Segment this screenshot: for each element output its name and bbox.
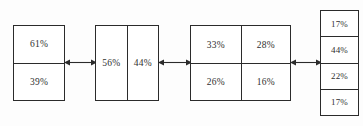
cell-box3-bottom-left: 26% bbox=[191, 63, 241, 100]
cell-label: 44% bbox=[134, 58, 152, 68]
double-arrow-box3-box4 bbox=[290, 58, 322, 67]
two-column-box: 56% 44% bbox=[95, 25, 159, 101]
four-row-box: 17% 44% 22% 17% bbox=[320, 10, 359, 116]
cell-box4-row3: 22% bbox=[321, 63, 358, 89]
cell-label: 56% bbox=[102, 58, 120, 68]
two-by-two-grid-box: 33% 28% 26% 16% bbox=[190, 25, 291, 101]
double-arrow-box2-box3 bbox=[158, 58, 192, 67]
cell-label: 17% bbox=[331, 97, 348, 107]
cell-label: 44% bbox=[331, 45, 348, 55]
cell-box4-row4: 17% bbox=[321, 89, 358, 115]
cell-box1-bottom: 39% bbox=[14, 63, 64, 101]
cell-box2-left: 56% bbox=[96, 26, 127, 100]
cell-label: 28% bbox=[257, 40, 275, 50]
cell-label: 26% bbox=[207, 77, 225, 87]
cell-box3-top-right: 28% bbox=[241, 26, 291, 63]
partition-diagram: 61% 39% 56% 44% 33% bbox=[0, 0, 363, 126]
cell-box3-top-left: 33% bbox=[191, 26, 241, 63]
two-row-box: 61% 39% bbox=[13, 25, 65, 101]
cell-label: 17% bbox=[331, 19, 348, 29]
cell-label: 33% bbox=[207, 40, 225, 50]
cell-box3-bottom-right: 16% bbox=[241, 63, 291, 100]
cell-label: 61% bbox=[30, 39, 48, 49]
cell-box1-top: 61% bbox=[14, 26, 64, 63]
cell-box2-right: 44% bbox=[127, 26, 159, 100]
cell-label: 16% bbox=[257, 77, 275, 87]
double-arrow-box1-box2 bbox=[64, 58, 97, 67]
cell-label: 22% bbox=[331, 71, 348, 81]
cell-box4-row2: 44% bbox=[321, 36, 358, 62]
cell-box4-row1: 17% bbox=[321, 11, 358, 36]
cell-label: 39% bbox=[30, 77, 48, 87]
